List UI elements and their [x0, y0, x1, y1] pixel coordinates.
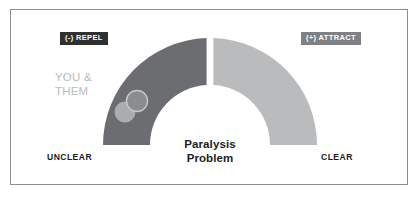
figure-canvas: (-) REPEL (+) ATTRACT YOU & THEM Paralys…	[0, 0, 420, 199]
axis-label-clear: CLEAR	[321, 152, 353, 162]
gauge-svg	[0, 0, 420, 199]
center-caption-line-1: Paralysis	[160, 138, 260, 152]
gauge-chart	[0, 0, 420, 199]
gauge-segment-attract	[213, 38, 317, 145]
center-caption-line-2: Problem	[160, 152, 260, 166]
you-and-them-line-2: THEM	[55, 85, 119, 99]
you-and-them-line-1: YOU &	[55, 71, 119, 85]
badge-repel[interactable]: (-) REPEL	[60, 32, 108, 45]
axis-label-unclear: UNCLEAR	[47, 152, 92, 162]
you-and-them-annotation: YOU & THEM	[55, 71, 119, 98]
them-marker-circle	[127, 91, 148, 112]
center-caption: Paralysis Problem	[160, 138, 260, 165]
badge-attract[interactable]: (+) ATTRACT	[301, 32, 361, 45]
